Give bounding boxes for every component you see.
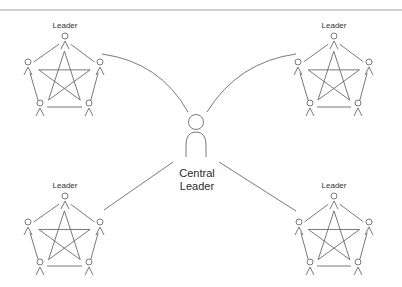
member-person-icon xyxy=(85,100,93,116)
team-link xyxy=(360,233,367,260)
team-link xyxy=(305,204,329,222)
leader-person-icon xyxy=(330,193,338,209)
member-person-icon xyxy=(24,219,32,235)
team-link xyxy=(91,233,98,260)
star-icon xyxy=(308,211,359,260)
leader-label: Leader xyxy=(322,21,347,30)
member-person-icon xyxy=(96,59,104,75)
central-leader-label-line2: Leader xyxy=(180,180,215,192)
star-icon xyxy=(308,51,359,100)
team-group-bottom-right: Leader xyxy=(295,181,373,275)
connection-bottom-right xyxy=(219,162,296,211)
team-link xyxy=(91,73,98,100)
central-leader-label-line1: Central xyxy=(179,167,214,179)
team-link xyxy=(340,44,364,62)
member-person-icon xyxy=(24,59,32,75)
leader-label: Leader xyxy=(53,21,78,30)
team-link xyxy=(360,73,367,100)
leadership-network-diagram: Central Leader LeaderLeaderLeaderLeader xyxy=(0,0,402,287)
member-person-icon xyxy=(294,59,302,75)
connection-top-right xyxy=(207,54,296,112)
member-person-icon xyxy=(306,100,314,116)
team-link xyxy=(71,204,95,222)
team-link xyxy=(300,73,308,101)
member-person-icon xyxy=(36,100,44,116)
team-link xyxy=(34,204,60,222)
team-link xyxy=(34,44,60,62)
member-person-icon xyxy=(354,100,362,116)
star-icon xyxy=(39,51,90,100)
leader-label: Leader xyxy=(53,181,78,190)
member-person-icon xyxy=(306,259,314,275)
member-person-icon xyxy=(96,219,104,235)
member-person-icon xyxy=(295,219,303,235)
member-person-icon xyxy=(85,259,93,275)
person-icon-body xyxy=(186,132,206,157)
team-link xyxy=(30,73,38,101)
team-link xyxy=(304,44,329,62)
team-link xyxy=(301,233,308,260)
connection-top-left xyxy=(102,54,188,112)
leader-person-icon xyxy=(61,193,69,209)
star-icon xyxy=(39,211,90,260)
member-person-icon xyxy=(354,259,362,275)
person-icon-head xyxy=(189,115,204,130)
team-group-top-right: Leader xyxy=(294,21,373,116)
connection-bottom-left xyxy=(104,162,173,210)
leader-person-icon xyxy=(330,33,338,49)
team-group-bottom-left: Leader xyxy=(24,181,104,275)
member-person-icon xyxy=(365,59,373,75)
central-leader: Central Leader xyxy=(179,115,214,193)
leader-person-icon xyxy=(61,33,69,49)
member-person-icon xyxy=(365,219,373,235)
team-group-top-left: Leader xyxy=(24,21,104,116)
team-link xyxy=(30,233,38,260)
team-link xyxy=(340,204,364,222)
leader-label: Leader xyxy=(322,181,347,190)
team-link xyxy=(71,44,95,62)
member-person-icon xyxy=(36,259,44,275)
